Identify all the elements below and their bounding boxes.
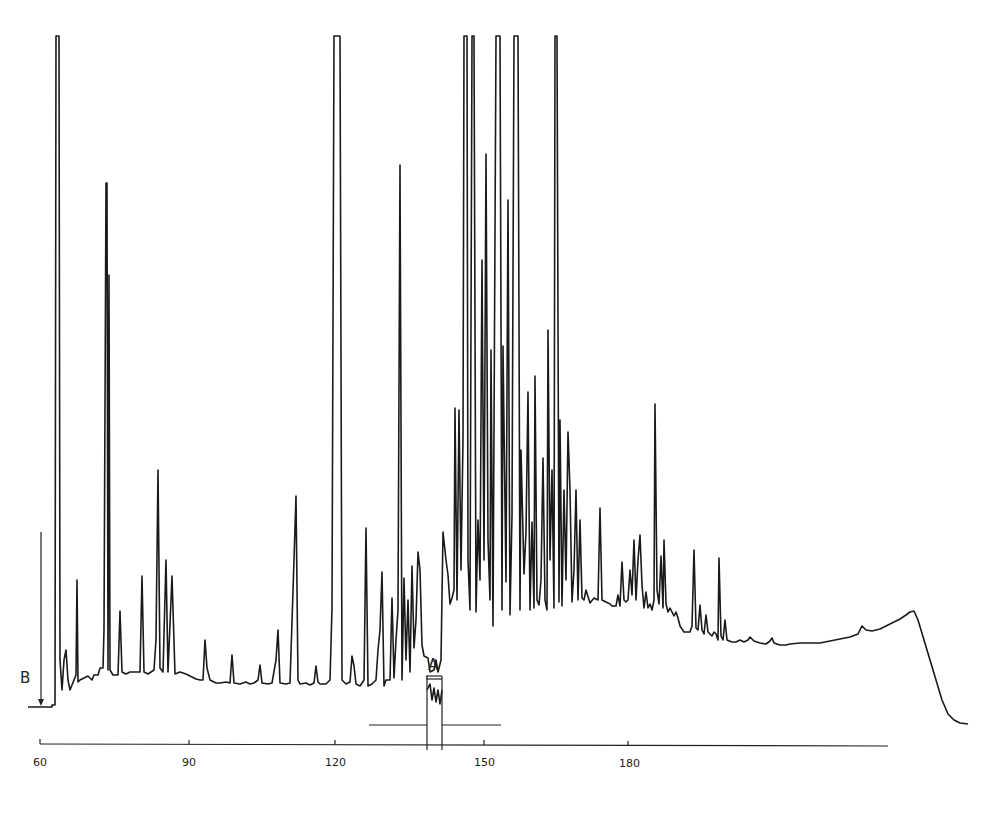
chromatogram-trace <box>28 36 968 724</box>
x-tick-label-60: 60 <box>33 756 47 769</box>
chromatogram-chart: B A 60 90 120 150 180 <box>0 0 988 840</box>
x-tick-label-180: 180 <box>619 757 640 770</box>
label-a: A <box>428 656 439 674</box>
region-a-trace <box>427 684 442 704</box>
x-tick-label-150: 150 <box>474 756 495 769</box>
label-b: B <box>20 669 30 687</box>
injection-arrow-icon <box>38 699 44 706</box>
x-tick-label-120: 120 <box>325 756 346 769</box>
x-axis <box>40 744 888 746</box>
x-tick-label-90: 90 <box>182 756 196 769</box>
